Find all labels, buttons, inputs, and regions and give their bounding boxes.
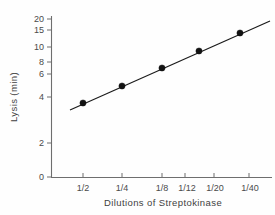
x-axis-title: Dilutions of Streptokinase [104, 197, 222, 208]
x-tick-label-1-40: 1/40 [241, 183, 259, 193]
y-tick-label-8: 8 [39, 57, 44, 67]
y-tick-label-20: 20 [34, 14, 44, 24]
lysis-dilution-plot: 20 15 10 8 6 4 2 0 Lysis (min) 1/2 1/4 1… [0, 0, 275, 215]
y-tick-label-10: 10 [34, 42, 44, 52]
data-point [159, 65, 165, 71]
y-tick-label-2: 2 [39, 138, 44, 148]
data-point [237, 30, 243, 36]
x-tick-label-1-12: 1/12 [178, 183, 196, 193]
y-tick-label-6: 6 [39, 69, 44, 79]
y-tick-labels: 20 15 10 8 6 4 2 0 [34, 14, 44, 182]
y-axis-title: Lysis (min) [8, 72, 19, 122]
chart-figure: 20 15 10 8 6 4 2 0 Lysis (min) 1/2 1/4 1… [0, 0, 275, 215]
y-tick-label-4: 4 [39, 92, 44, 102]
x-tick-labels: 1/2 1/4 1/8 1/12 1/20 1/40 [77, 183, 259, 193]
axis-lines [51, 16, 272, 178]
data-point [80, 100, 86, 106]
y-tick-label-0: 0 [39, 172, 44, 182]
data-point [196, 48, 202, 54]
x-tick-label-1-8: 1/8 [156, 183, 169, 193]
x-tick-label-1-2: 1/2 [77, 183, 90, 193]
x-tick-label-1-20: 1/20 [206, 183, 224, 193]
data-point [119, 83, 125, 89]
y-tick-label-15: 15 [34, 25, 44, 35]
x-tick-label-1-4: 1/4 [116, 183, 129, 193]
